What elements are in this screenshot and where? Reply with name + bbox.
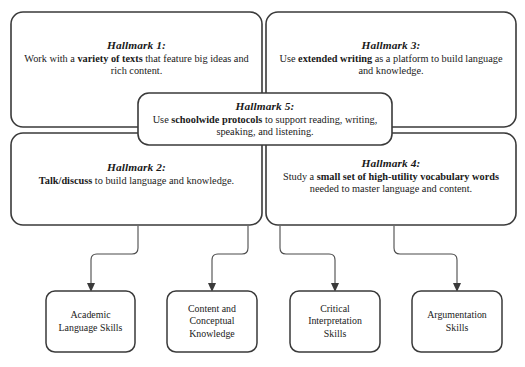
hallmark-5-box bbox=[138, 93, 392, 145]
hallmark-4-box bbox=[266, 133, 516, 225]
outcome-critical-interpretation-skills-box bbox=[290, 291, 380, 352]
hallmarks-diagram: Hallmark 1: Work with a variety of texts… bbox=[0, 0, 525, 367]
connector-to-critical-interpretation-skills bbox=[280, 226, 335, 285]
outcome-content-conceptual-knowledge-box bbox=[167, 291, 257, 352]
connector-to-argumentation-skills bbox=[394, 226, 457, 285]
connector-to-content-conceptual-knowledge bbox=[212, 226, 248, 285]
diagram-canvas bbox=[0, 0, 525, 367]
connector-to-academic-language-skills bbox=[91, 226, 138, 285]
hallmark-2-box bbox=[11, 133, 262, 225]
outcome-academic-language-skills-box bbox=[46, 291, 135, 352]
outcome-argumentation-skills-box bbox=[412, 291, 502, 352]
